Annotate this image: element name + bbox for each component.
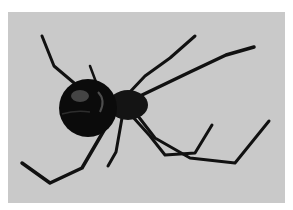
spider-leg <box>42 36 80 88</box>
spider-leg <box>140 47 254 96</box>
spider-illustration <box>8 12 285 203</box>
abdomen-highlight <box>71 90 89 102</box>
spider-photo <box>8 12 285 203</box>
spider-abdomen <box>59 79 117 137</box>
